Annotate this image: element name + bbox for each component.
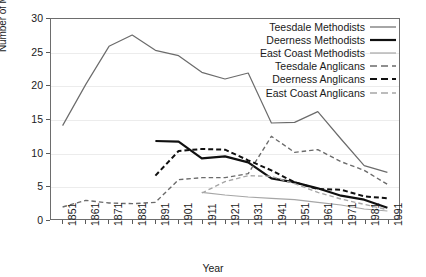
x-tick-label: 1911 (206, 203, 218, 226)
x-axis-title: Year (0, 262, 426, 274)
x-tick-mark (272, 220, 273, 224)
x-tick-mark (342, 220, 343, 224)
x-tick-mark (155, 220, 156, 224)
y-tick-label: 20 (17, 79, 43, 91)
legend-swatch-icon (370, 49, 396, 57)
legend-swatch-icon (370, 36, 396, 44)
x-tick-label: 1861 (89, 203, 101, 226)
x-tick-mark (202, 220, 203, 224)
legend-label: East Coast Methodists (260, 47, 365, 59)
legend-swatch-icon (370, 23, 396, 31)
x-tick-label: 1871 (112, 203, 124, 226)
series-line (155, 149, 387, 198)
x-tick-label: 1971 (346, 203, 358, 226)
legend-item[interactable]: Deerness Methodists (222, 33, 396, 46)
x-tick-label: 1981 (369, 203, 381, 226)
legend-label: Deerness Anglicans (272, 73, 365, 85)
y-tick-mark (46, 220, 50, 221)
legend-item[interactable]: Deerness Anglicans (222, 73, 396, 86)
legend-item[interactable]: Teesdale Anglicans (222, 60, 396, 73)
x-tick-label: 1961 (322, 203, 334, 226)
x-tick-mark (62, 220, 63, 224)
series-line (155, 141, 387, 208)
legend-label: Teesdale Methodists (269, 21, 365, 33)
x-tick-label: 1881 (136, 203, 148, 226)
legend-item[interactable]: East Coast Methodists (222, 46, 396, 59)
x-tick-mark (318, 220, 319, 224)
legend-label: Deerness Methodists (266, 34, 365, 46)
x-tick-label: 1891 (159, 203, 171, 226)
series-line (63, 136, 388, 207)
x-tick-label: 1931 (252, 203, 264, 226)
y-tick-label: 10 (17, 147, 43, 159)
y-tick-label: 0 (17, 214, 43, 226)
x-tick-label: 1951 (299, 203, 311, 226)
x-tick-label: 1991 (392, 203, 404, 226)
legend-label: East Coast Anglicans (266, 87, 365, 99)
y-tick-label: 25 (17, 46, 43, 58)
y-tick-label: 5 (17, 180, 43, 192)
x-tick-label: 1901 (182, 203, 194, 226)
y-tick-label: 30 (17, 12, 43, 24)
line-chart: Number of Methodists/Anglicans 051015202… (0, 0, 426, 277)
x-tick-mark (108, 220, 109, 224)
x-tick-mark (178, 220, 179, 224)
legend-swatch-icon (370, 75, 396, 83)
legend-item[interactable]: Teesdale Methodists (222, 20, 396, 33)
legend-swatch-icon (370, 89, 396, 97)
y-tick-label: 15 (17, 113, 43, 125)
x-tick-mark (248, 220, 249, 224)
x-tick-label: 1941 (276, 203, 288, 226)
x-tick-label: 1921 (229, 203, 241, 226)
x-tick-label: 1851 (66, 203, 78, 226)
legend-item[interactable]: East Coast Anglicans (222, 86, 396, 99)
x-tick-mark (85, 220, 86, 224)
x-tick-mark (132, 220, 133, 224)
x-tick-mark (365, 220, 366, 224)
x-tick-mark (388, 220, 389, 224)
legend-label: Teesdale Anglicans (275, 60, 365, 72)
y-axis-title: Number of Methodists/Anglicans (0, 0, 8, 52)
legend: Teesdale MethodistsDeerness MethodistsEa… (222, 20, 396, 99)
legend-swatch-icon (370, 62, 396, 70)
x-tick-mark (225, 220, 226, 224)
x-tick-mark (295, 220, 296, 224)
